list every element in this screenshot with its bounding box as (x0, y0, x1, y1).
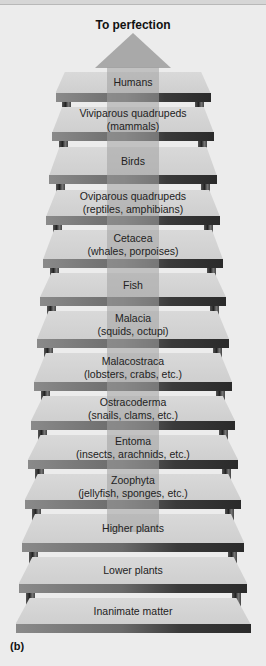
step-label: Malacostraca(lobsters, crabs, etc.) (34, 353, 232, 382)
step-label-line2: (lobsters, crabs, etc.) (84, 368, 182, 381)
step-label: Zoophyta(jellyfish, sponges, etc.) (25, 474, 242, 500)
step-label-line1: Higher plants (102, 522, 164, 535)
step-label-line2: (squids, octupi) (97, 325, 168, 338)
step-label-line1: Malacostraca (102, 355, 164, 368)
top-border (0, 0, 266, 5)
step-label-line1: Inanimate matter (94, 605, 173, 618)
step-label: Lower plants (19, 557, 248, 584)
step-label: Cetacea(whales, porpoises) (43, 230, 223, 259)
step-edge (19, 584, 248, 593)
step-edge (16, 624, 251, 633)
step-label-line1: Ostracoderma (100, 396, 167, 409)
step-label-line2: (mammals) (107, 120, 160, 133)
ladder-step: Inanimate matter (16, 598, 251, 633)
step-label-line1: Humans (113, 76, 152, 89)
step-label: Malacia(squids, octupi) (37, 311, 229, 339)
step-label-line1: Lower plants (103, 564, 163, 577)
step-label-line1: Oviparous quadrupeds (80, 190, 186, 203)
step-label: Higher plants (22, 514, 245, 543)
step-label-line1: Entoma (115, 435, 151, 448)
step-label: Oviparous quadrupeds(reptiles, amphibian… (46, 190, 219, 216)
step-label: Inanimate matter (16, 598, 251, 624)
step-label-line1: Viviparous quadrupeds (79, 107, 186, 120)
step-label: Humans (56, 72, 211, 93)
step-label: Viviparous quadrupeds(mammals) (52, 107, 213, 132)
step-label: Fish (40, 273, 226, 297)
step-label-line2: (reptiles, amphibians) (83, 203, 183, 216)
step-label-line1: Zoophyta (111, 474, 155, 487)
diagram-title: To perfection (0, 18, 266, 32)
step-label: Birds (49, 147, 216, 175)
step-label: Entoma(insects, arachnids, etc.) (28, 435, 238, 460)
figure-caption: (b) (10, 640, 24, 652)
step-label-line1: Birds (121, 155, 145, 168)
step-label-line2: (jellyfish, sponges, etc.) (78, 487, 188, 500)
step-label-line1: Fish (123, 279, 143, 292)
step-edge (22, 543, 245, 552)
arrow-shaft (107, 67, 159, 532)
ladder-step: Lower plants (19, 557, 248, 593)
step-label-line2: (insects, arachnids, etc.) (76, 448, 190, 461)
step-label-line2: (snails, clams, etc.) (88, 409, 178, 422)
arrow-up-icon (95, 33, 171, 68)
ladder-step: Higher plants (22, 514, 245, 552)
step-label-line1: Cetacea (113, 232, 152, 245)
step-label: Ostracoderma(snails, clams, etc.) (31, 396, 235, 421)
step-label-line2: (whales, porpoises) (87, 245, 178, 258)
step-label-line1: Malacia (115, 312, 151, 325)
